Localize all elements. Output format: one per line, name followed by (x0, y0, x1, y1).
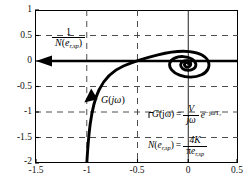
eq-g-lhs: G(jω) (152, 110, 174, 120)
eq-n-lhs: N(er,sp) (148, 141, 174, 151)
g-fn: G (101, 94, 108, 105)
transfer-function-equation: G(jω) = V jω e−jωTr (152, 105, 221, 125)
inverse-describing-function-label: 1 N(er,sp) (52, 27, 85, 49)
eq-g-fraction: V jω (183, 105, 198, 125)
inv-n-numerator: 1 (52, 27, 85, 37)
eq-n-num: 4K (183, 136, 207, 146)
eq-g-equals: = (176, 110, 181, 120)
nyquist-plot-figure: 1 0.5 0 -0.5 -1 -1.5 -2 -1.5 -1 -0.5 0 0… (0, 0, 250, 187)
x-tick-0p5: 0.5 (219, 166, 250, 176)
y-tick-1: 1 (8, 5, 32, 15)
transfer-function-label: G(jω) (101, 95, 125, 105)
eq-n-equals: = (176, 141, 181, 151)
x-tick-m0p5: -0.5 (119, 166, 155, 176)
inv-n-denominator: N(er,sp) (52, 37, 85, 49)
y-tick-m1p5: -1.5 (6, 133, 32, 143)
x-tick-m1: -1 (69, 166, 105, 176)
y-tick-0: 0 (8, 56, 32, 66)
eq-g-exponential: e−jωTr (201, 110, 221, 121)
eq-g-den: jω (183, 115, 198, 126)
eq-g-num: V (183, 105, 198, 115)
x-tick-m1p5: -1.5 (18, 166, 54, 176)
eq-n-den: πer,sp (183, 146, 207, 157)
g-omega: ω (114, 94, 121, 105)
y-tick-m0p5: -0.5 (6, 82, 32, 92)
y-tick-0p5: 0.5 (8, 31, 32, 41)
inv-n-fraction: 1 N(er,sp) (52, 27, 85, 49)
eq-n-fraction: 4K πer,sp (183, 136, 207, 156)
x-tick-0: 0 (170, 166, 206, 176)
y-tick-m1: -1 (6, 107, 32, 117)
describing-function-equation: N(er,sp) = 4K πer,sp (148, 136, 207, 156)
